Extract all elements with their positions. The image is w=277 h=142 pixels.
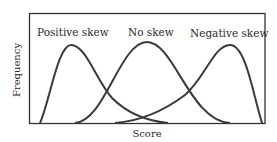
label-positive-skew: Positive skew	[37, 26, 109, 38]
skewness-chart: Positive skew No skew Negative skew Scor…	[0, 0, 277, 142]
curve-negative-skew	[115, 45, 262, 123]
x-axis-label: Score	[132, 128, 161, 139]
curve-positive-skew	[40, 45, 168, 123]
y-axis-label: Frequency	[11, 43, 22, 97]
curve-no-skew	[75, 42, 230, 123]
label-negative-skew: Negative skew	[190, 27, 268, 39]
label-no-skew: No skew	[128, 26, 174, 38]
